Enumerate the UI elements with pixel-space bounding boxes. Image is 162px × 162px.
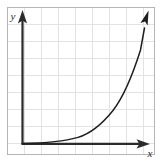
x-axis-label: x bbox=[147, 147, 153, 159]
graph-canvas: y x bbox=[0, 0, 162, 162]
exponential-graph-figure: y x bbox=[0, 0, 162, 162]
y-axis-label: y bbox=[10, 10, 16, 22]
